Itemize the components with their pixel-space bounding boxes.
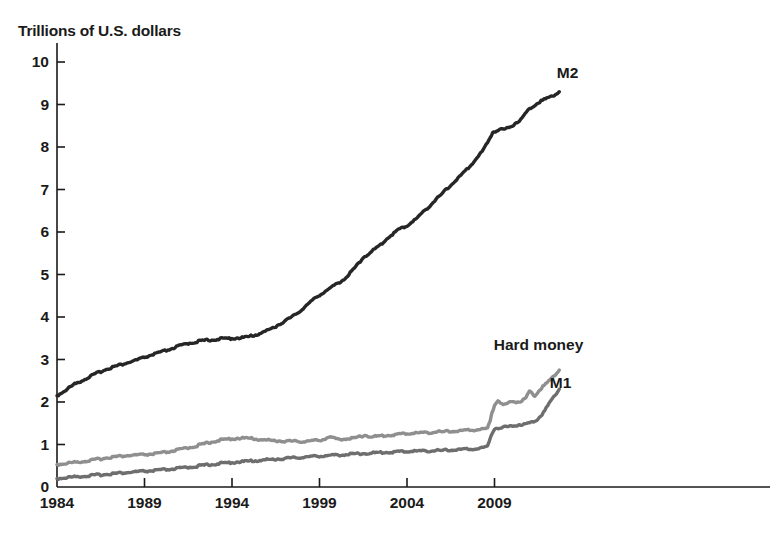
series-label-hard-money: Hard money <box>494 337 584 353</box>
y-axis-tick-label: 10 <box>15 54 49 70</box>
series-line-m1 <box>57 389 559 479</box>
x-axis-tick-label: 1994 <box>197 495 267 511</box>
series-label-m2: M2 <box>557 65 579 81</box>
y-axis-tick-label: 8 <box>15 139 49 155</box>
y-axis-tick-label: 3 <box>15 352 49 368</box>
x-axis-tick-label: 2009 <box>460 495 530 511</box>
plot-area <box>0 0 784 538</box>
x-axis-tick-label: 1999 <box>285 495 355 511</box>
series-label-m1: M1 <box>550 375 572 391</box>
y-axis-tick-label: 5 <box>15 267 49 283</box>
y-axis-tick-label: 6 <box>15 224 49 240</box>
y-axis-tick-label: 7 <box>15 182 49 198</box>
y-axis-tick-label: 2 <box>15 394 49 410</box>
y-axis-tick-label: 0 <box>15 479 49 495</box>
x-axis-tick-label: 1989 <box>110 495 180 511</box>
y-axis-tick-label: 4 <box>15 309 49 325</box>
y-axis-tick-label: 1 <box>15 437 49 453</box>
series-line-hard-money <box>57 370 559 465</box>
money-supply-line-chart: Trillions of U.S. dollars 012345678910 1… <box>0 0 784 538</box>
x-axis-tick-label: 1984 <box>22 495 92 511</box>
series-line-m2 <box>57 92 559 396</box>
y-axis-tick-label: 9 <box>15 97 49 113</box>
x-axis-tick-label: 2004 <box>372 495 442 511</box>
